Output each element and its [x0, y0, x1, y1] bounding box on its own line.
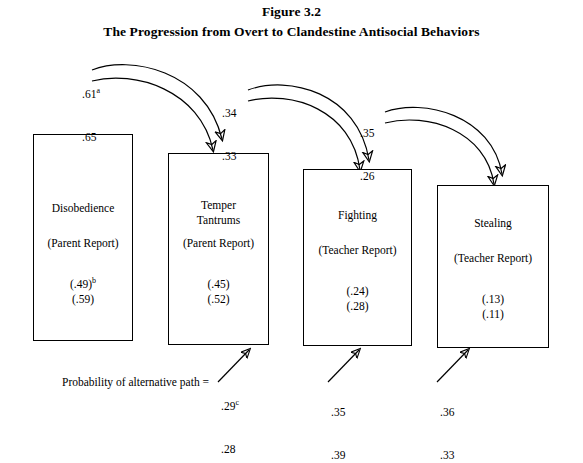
- path-3-value2: .26: [360, 169, 374, 183]
- path-label-3: .35 .26: [360, 96, 374, 212]
- node-temper-tantrums-values: (.45) (.52): [169, 276, 268, 308]
- path-2-value2: .33: [222, 149, 236, 163]
- node-stealing-value1: (.13): [482, 293, 504, 305]
- node-temper-tantrums-label-line1: Temper: [169, 198, 268, 212]
- alt-path-2-value2: .39: [331, 448, 345, 462]
- node-fighting-source: (Teacher Report): [304, 243, 411, 257]
- node-temper-tantrums: Temper Tantrums (Parent Report) (.45) (.…: [168, 153, 269, 345]
- figure-title: The Progression from Overt to Clandestin…: [0, 24, 583, 40]
- node-fighting-value2: (.28): [304, 299, 411, 315]
- path-1-value1-sup: a: [96, 86, 100, 95]
- alt-path-label-2: .35 .39: [331, 375, 345, 463]
- node-fighting-value1: (.24): [346, 285, 368, 297]
- node-fighting-label: Fighting: [304, 208, 411, 222]
- path-1-value1: .61: [82, 88, 96, 100]
- node-disobedience-value1: (.49): [70, 278, 92, 290]
- node-temper-tantrums-value1: (.45): [207, 278, 229, 290]
- node-disobedience-source: (Parent Report): [34, 236, 132, 250]
- node-temper-tantrums-value2: (.52): [169, 292, 268, 308]
- alt-path-caption: Probability of alternative path =: [62, 376, 209, 388]
- node-stealing-label: Stealing: [438, 216, 548, 230]
- node-stealing: Stealing (Teacher Report) (.13) (.11): [437, 185, 549, 348]
- alt-path-3-value1: .36: [440, 406, 454, 418]
- alt-path-label-1: .29c .28: [221, 369, 239, 463]
- node-disobedience-values: (.49)b (.59): [34, 276, 132, 308]
- alt-path-1-value1: .29: [221, 400, 235, 412]
- path-label-2: .34 .33: [222, 76, 236, 192]
- alt-path-1-value2: .28: [221, 442, 239, 456]
- path-1-value2: .65: [82, 130, 100, 144]
- alt-path-1-value1-sup: c: [235, 398, 239, 407]
- node-disobedience-label: Disobedience: [34, 201, 132, 215]
- alt-path-2-value1: .35: [331, 406, 345, 418]
- node-temper-tantrums-source: (Parent Report): [169, 236, 268, 250]
- node-stealing-values: (.13) (.11): [438, 291, 548, 323]
- path-3-value1: .35: [360, 127, 374, 139]
- figure-number: Figure 3.2: [0, 4, 583, 20]
- node-fighting-values: (.24) (.28): [304, 283, 411, 315]
- alt-path-label-3: .36 .33: [440, 375, 454, 463]
- alt-path-3-value2: .33: [440, 448, 454, 462]
- node-stealing-value2: (.11): [438, 307, 548, 323]
- node-fighting: Fighting (Teacher Report) (.24) (.28): [303, 169, 412, 346]
- path-2-value1: .34: [222, 107, 236, 119]
- node-disobedience-value1-sup: b: [92, 276, 96, 285]
- node-disobedience-value2: (.59): [34, 292, 132, 308]
- node-temper-tantrums-label-line2: Tantrums: [169, 213, 268, 227]
- node-stealing-source: (Teacher Report): [438, 251, 548, 265]
- path-label-1: .61a .65: [82, 57, 100, 173]
